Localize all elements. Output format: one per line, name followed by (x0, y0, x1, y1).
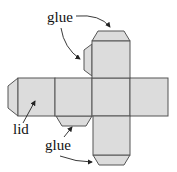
arrow-glue-to-top-flap (76, 16, 110, 27)
lid-label: lid (13, 121, 29, 137)
top-flap (92, 31, 130, 41)
face-top (92, 41, 130, 78)
arrow-glue-to-bottom-flap (60, 156, 92, 162)
face-right (130, 78, 168, 116)
face-bottom (93, 116, 130, 155)
under-lid-flap (56, 116, 92, 126)
arrow-glue-to-under-flap (64, 127, 72, 137)
glue-bottom-label: glue (45, 137, 71, 153)
bottom-glue-flap (93, 155, 130, 165)
face-left (18, 78, 55, 116)
box-net-diagram: glue lid glue (0, 0, 177, 172)
left-end-flap (8, 78, 18, 116)
arrow-glue-to-side-flap (61, 28, 80, 59)
top-side-glue-flap (84, 44, 92, 76)
face-center (92, 78, 130, 116)
glue-top-label: glue (47, 9, 73, 25)
face-second (55, 78, 92, 116)
